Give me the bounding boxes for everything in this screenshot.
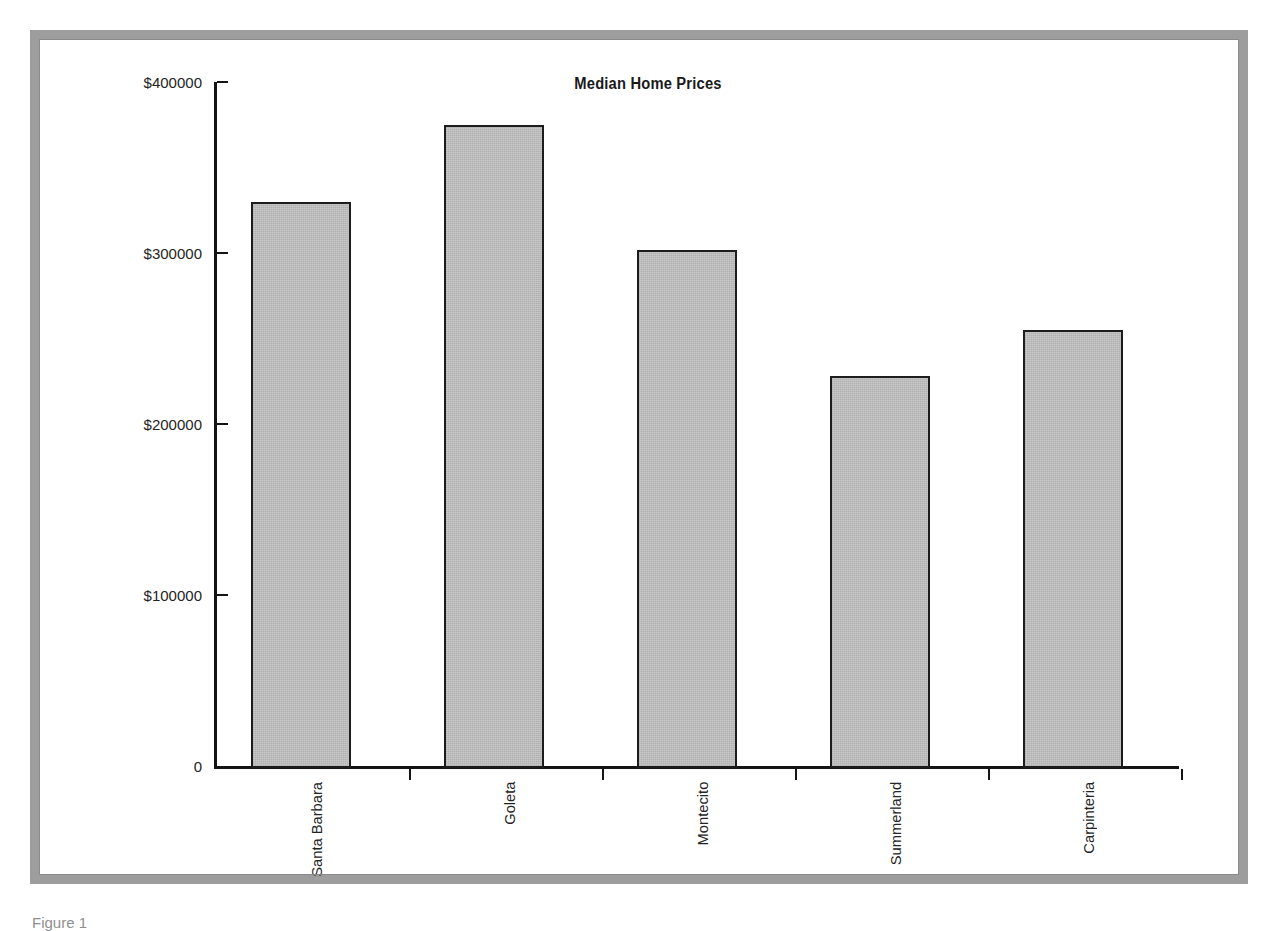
x-axis-label: Summerland: [887, 781, 904, 866]
y-axis-tick: [217, 81, 228, 83]
x-axis-tick: [795, 769, 797, 780]
x-axis-label: Carpinteria: [1080, 781, 1097, 854]
y-axis-tick-label: $200000: [144, 416, 202, 433]
x-axis-label: Goleta: [501, 781, 518, 825]
y-axis-tick-label: $100000: [144, 587, 202, 604]
y-axis-tick: [217, 594, 228, 596]
x-axis-tick: [409, 769, 411, 780]
x-axis-label: Montecito: [694, 781, 711, 846]
figure-frame: Median Home Prices 0$100000$200000$30000…: [30, 30, 1248, 884]
bar: [251, 202, 351, 768]
x-axis-tick: [1181, 769, 1183, 780]
bar: [1023, 330, 1123, 768]
chart-plot-area: Median Home Prices 0$100000$200000$30000…: [39, 39, 1257, 893]
bar: [637, 250, 737, 768]
bar: [444, 125, 544, 768]
x-axis-label: Santa Barbara: [308, 781, 325, 878]
y-axis-tick-label: $300000: [144, 245, 202, 262]
x-axis-tick: [602, 769, 604, 780]
x-axis-tick: [988, 769, 990, 780]
figure-caption: Figure 1: [32, 914, 87, 931]
bar: [830, 376, 930, 768]
y-axis-tick: [217, 423, 228, 425]
y-axis-tick-label: 0: [194, 758, 202, 775]
y-axis-tick-label: $400000: [144, 74, 202, 91]
y-axis-tick: [217, 252, 228, 254]
chart-title: Median Home Prices: [88, 75, 1209, 93]
